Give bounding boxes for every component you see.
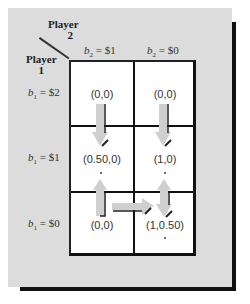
arrow-up-left-icon — [93, 179, 107, 216]
arrow-updown-right-icon — [156, 179, 172, 217]
arrow-down-right-icon — [155, 104, 171, 146]
best-response-arrows — [0, 0, 250, 304]
arrow-down-left-icon — [92, 104, 108, 146]
arrow-right-bottom-icon — [112, 198, 154, 215]
